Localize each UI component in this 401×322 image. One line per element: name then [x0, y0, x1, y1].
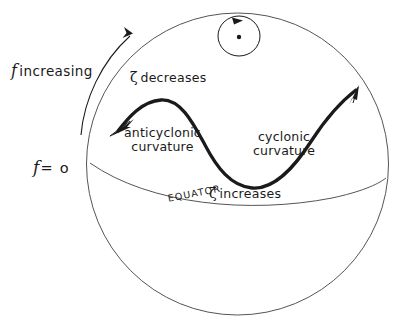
label-zeta-decreases: ζdecreases	[130, 70, 207, 86]
symbol-zeta: ζ	[130, 69, 138, 85]
label-anticyclonic-line2: curvature	[124, 140, 201, 154]
diagram-canvas: fincreasing f= o ζdecreases ζincreases a…	[0, 0, 401, 322]
label-f-increasing: fincreasing	[11, 62, 93, 80]
label-zeta-decreases-text: decreases	[140, 70, 206, 85]
label-f-equals-zero: f= o	[33, 158, 70, 177]
symbol-f: f	[11, 61, 17, 80]
label-cyclonic-line2: curvature	[253, 144, 315, 158]
label-anticyclonic-line1: anticyclonic	[124, 126, 201, 140]
f-gradient-arrow	[81, 27, 133, 135]
label-anticyclonic-curvature: anticyclonic curvature	[124, 126, 201, 154]
symbol-f: f	[33, 157, 41, 177]
globe-outline	[87, 13, 389, 315]
label-cyclonic-curvature: cyclonic curvature	[253, 130, 315, 158]
label-cyclonic-line1: cyclonic	[253, 130, 315, 144]
label-f-increasing-text: increasing	[19, 63, 92, 79]
rotation-arrowhead	[232, 18, 243, 25]
label-f-zero-text: = o	[41, 160, 70, 176]
earth-rotation-circle	[218, 16, 260, 56]
rotation-center-dot	[237, 35, 241, 39]
label-zeta-increases-text: increases	[219, 186, 281, 201]
